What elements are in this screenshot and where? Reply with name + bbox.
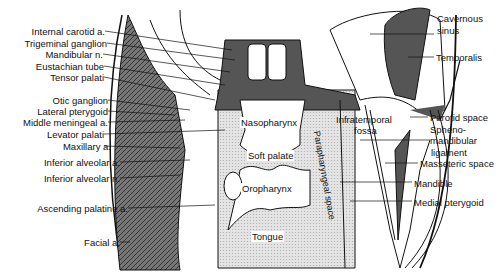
label-levator-palati: Levator palati [47, 129, 104, 140]
label-ligament: ligament [431, 147, 467, 158]
label-cavernous: Cavernous [437, 13, 483, 24]
label-inferior-alveolar-n: Inferior alveolar n. [44, 173, 120, 184]
label-fossa: fossa [353, 125, 378, 136]
label-tensor-palati: Tensor palati [50, 72, 104, 83]
label-internal-carotid: Internal carotid a. [32, 26, 105, 37]
label-sinus: sinus [437, 25, 459, 36]
label-lateral-pterygoid: Lateral pterygoid [37, 106, 108, 117]
label-temporalis: Temporalis [436, 52, 482, 63]
label-medial-pterygoid: Medial pterygoid [414, 197, 484, 208]
label-masseteric-space: Masseteric space [420, 158, 494, 169]
label-otic-ganglion: Otic ganglion [53, 95, 108, 106]
label-maxillary-a: Maxillary a. [63, 141, 111, 152]
label-trigeminal-ganglion: Trigeminal ganglion [24, 38, 107, 49]
label-facial-a: Facial a. [84, 237, 120, 248]
label-soft-palate: Soft palate [247, 150, 294, 161]
label-parotid-space: Parotid space [430, 112, 488, 123]
label-spheno: Spheno- [430, 124, 466, 135]
label-eustachian-tube: Eustachian tube [36, 61, 104, 72]
label-mandible: Mandible [414, 178, 453, 189]
label-infratemporal: Infratemporal [335, 114, 393, 125]
label-middle-meningeal: Middle meningeal a. [23, 117, 108, 128]
label-tongue: Tongue [251, 231, 284, 242]
anatomy-diagram: Internal carotid a. Trigeminal ganglion … [0, 0, 503, 274]
label-ascending-palatine: Ascending palatine a. [37, 203, 128, 214]
label-mandibular-n: Mandibular n. [45, 49, 103, 60]
label-inferior-alveolar-a: Inferior alveolar a. [44, 157, 120, 168]
label-mandibular: mandibular [430, 135, 477, 146]
label-oropharynx: Oropharynx [241, 183, 293, 194]
label-nasopharynx: Nasopharynx [240, 117, 298, 128]
